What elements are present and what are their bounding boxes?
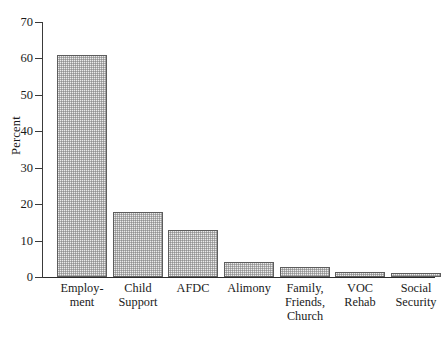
bar-child-support bbox=[113, 212, 163, 277]
y-axis-tick-label: 40 bbox=[7, 125, 33, 138]
y-axis-tick-label: 50 bbox=[7, 89, 33, 102]
y-axis-tick-label: 70 bbox=[7, 16, 33, 29]
y-axis-tick-label: 20 bbox=[7, 198, 33, 211]
x-axis-labels: Employ- mentChild SupportAFDCAlimonyFami… bbox=[42, 281, 437, 338]
bar-social-security bbox=[391, 273, 441, 277]
x-axis-label-voc-rehab: VOC Rehab bbox=[328, 281, 392, 309]
x-axis-label-afdc: AFDC bbox=[161, 281, 225, 295]
y-axis-tick-label: 10 bbox=[7, 234, 33, 247]
x-axis-label-alimony: Alimony bbox=[217, 281, 281, 295]
x-axis-line bbox=[42, 277, 435, 278]
bar-afdc bbox=[168, 230, 218, 277]
bar-employment bbox=[57, 55, 107, 277]
bar-alimony bbox=[224, 262, 274, 277]
x-axis-label-employment: Employ- ment bbox=[50, 281, 114, 309]
x-axis-label-social-security: Social Security bbox=[384, 281, 445, 309]
bar-family-friends-church bbox=[280, 267, 330, 277]
y-axis-tick-label: 30 bbox=[7, 161, 33, 174]
bars-container bbox=[42, 22, 435, 277]
bar-voc-rehab bbox=[335, 272, 385, 277]
y-axis-tick-mark bbox=[35, 277, 43, 278]
y-axis-tick-label: 60 bbox=[7, 52, 33, 65]
y-axis-tick-label: 0 bbox=[7, 271, 33, 284]
